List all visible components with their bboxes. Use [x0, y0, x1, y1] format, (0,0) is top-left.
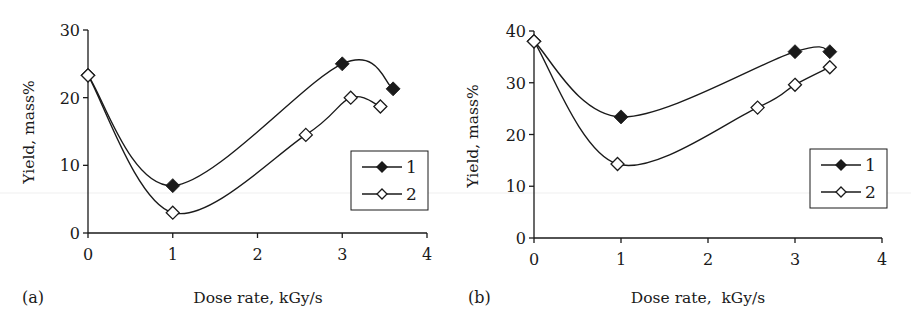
- x-tick-label: 4: [422, 245, 432, 264]
- legend-label: 1: [865, 155, 876, 175]
- panel-label: (a): [22, 288, 44, 307]
- legend-label: 1: [406, 157, 417, 177]
- y-tick-label: 30: [60, 21, 80, 40]
- x-tick-label: 3: [337, 245, 347, 264]
- y-tick-label: 20: [60, 89, 80, 108]
- filled-diamond-marker: [823, 45, 837, 59]
- y-axis: 0102030: [60, 21, 88, 243]
- open-diamond-marker: [823, 61, 836, 74]
- open-diamond-marker: [344, 91, 357, 104]
- y-tick-label: 0: [70, 224, 80, 243]
- y-tick-label: 0: [516, 229, 526, 248]
- chart-panel-a: 0102030 01234 Yield, mass% Dose rate, kG…: [20, 21, 432, 307]
- y-tick-label: 40: [506, 22, 526, 41]
- x-axis: 01234: [529, 238, 887, 269]
- open-diamond-marker: [299, 128, 312, 141]
- series-line-2: [534, 41, 830, 165]
- x-axis: 01234: [83, 233, 432, 264]
- y-axis: 010203040: [506, 22, 534, 248]
- x-axis-label: Dose rate, kGy/s: [631, 289, 765, 307]
- open-diamond-marker: [82, 69, 95, 82]
- open-diamond-marker: [166, 206, 179, 219]
- y-tick-label: 10: [60, 156, 80, 175]
- y-tick-label: 20: [506, 126, 526, 145]
- x-tick-label: 2: [703, 250, 713, 269]
- plot-area: [527, 34, 837, 170]
- y-tick-label: 10: [506, 177, 526, 196]
- legend-label: 2: [865, 182, 876, 202]
- figure: 0102030 01234 Yield, mass% Dose rate, kG…: [0, 0, 911, 327]
- x-axis-label: Dose rate, kGy/s: [193, 289, 322, 307]
- y-axis-label: Yield, mass%: [464, 84, 482, 188]
- x-tick-label: 1: [168, 245, 178, 264]
- legend-label: 2: [406, 184, 417, 204]
- x-tick-label: 3: [790, 250, 800, 269]
- filled-diamond-marker: [335, 57, 349, 71]
- x-tick-label: 0: [529, 250, 539, 269]
- series-line-1: [88, 60, 393, 186]
- open-diamond-marker: [751, 101, 764, 114]
- series-line-1: [534, 41, 830, 117]
- y-axis-label: Yield, mass%: [20, 80, 38, 184]
- x-tick-label: 1: [616, 250, 626, 269]
- legend: 1 2: [810, 149, 887, 208]
- x-tick-label: 0: [83, 245, 93, 264]
- y-tick-label: 30: [506, 74, 526, 93]
- x-tick-label: 2: [252, 245, 262, 264]
- filled-diamond-marker: [788, 45, 802, 59]
- chart-panel-b: 010203040 01234 Yield, mass% Dose rate, …: [464, 22, 887, 307]
- open-diamond-marker: [789, 78, 802, 91]
- legend: 1 2: [351, 151, 428, 210]
- open-diamond-marker: [374, 100, 387, 113]
- filled-diamond-marker: [166, 179, 180, 193]
- panel-label: (b): [468, 288, 491, 307]
- x-tick-label: 4: [877, 250, 887, 269]
- open-diamond-marker: [611, 157, 624, 170]
- filled-diamond-marker: [614, 110, 628, 124]
